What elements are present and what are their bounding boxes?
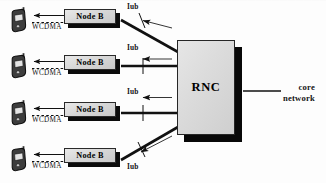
wcdma-label-4: WCDMA — [32, 163, 62, 171]
node-b-label: Node B — [76, 58, 104, 67]
node-b-face: Node B — [64, 148, 116, 163]
wcdma-label-3: WCDMA — [32, 117, 62, 125]
node-b-face: Node B — [64, 9, 116, 24]
wcdma-label-1: WCDMA — [32, 24, 62, 32]
rnc-label: RNC — [192, 80, 221, 95]
iub-link-4 — [121, 127, 178, 160]
node-b-face: Node B — [64, 102, 116, 117]
core-network-line-2: network — [283, 93, 315, 104]
iub-label-3: Iub — [127, 88, 138, 96]
mobile-handset-3 — [9, 99, 29, 131]
wcdma-label-2: WCDMA — [32, 70, 62, 78]
mobile-handset-4 — [9, 145, 29, 177]
mobile-handset-1 — [9, 6, 29, 38]
node-b-face: Node B — [64, 55, 116, 70]
rnc-face: RNC — [177, 40, 235, 135]
wcdma-link-1 — [32, 16, 68, 23]
iub-label-2: Iub — [127, 44, 138, 52]
iub-label-4: Iub — [127, 163, 138, 171]
mobile-handset-2 — [9, 52, 29, 84]
iub-link-3 — [121, 98, 178, 122]
core-network-line-1: core — [283, 82, 315, 93]
umts-architecture-diagram: WCDMA WCDMA WCDMA WCDMA Node B Node B No… — [0, 0, 326, 183]
node-b-label: Node B — [76, 151, 104, 160]
core-network-label: core network — [283, 82, 315, 104]
wcdma-link-3 — [32, 109, 68, 116]
iub-label-1: Iub — [127, 3, 138, 11]
iub-link-2 — [121, 58, 178, 74]
node-b-label: Node B — [76, 105, 104, 114]
wcdma-link-2 — [32, 62, 68, 69]
node-b-label: Node B — [76, 12, 104, 21]
wcdma-link-4 — [32, 155, 68, 162]
